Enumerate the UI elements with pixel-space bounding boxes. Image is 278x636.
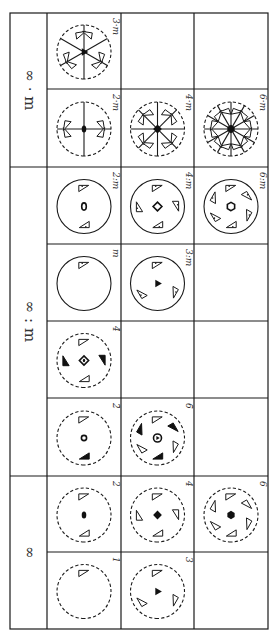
dot-icon [177, 204, 179, 206]
open-triangle-icon [210, 213, 220, 222]
open-triangle-icon [137, 598, 147, 607]
dot-icon [232, 226, 234, 228]
rotation-axis-icon [227, 202, 234, 210]
dot-icon [159, 226, 161, 228]
open-triangle-icon [79, 221, 89, 227]
open-triangle-icon [241, 500, 251, 509]
dot-icon [228, 186, 230, 188]
point-group-label: 4:m [184, 171, 194, 189]
open-triangle-icon [136, 202, 142, 212]
open-triangle-icon [152, 494, 162, 500]
rotation-axis-icon [153, 511, 162, 520]
open-triangle-icon [79, 570, 89, 576]
table-cells: 3·m2·m4·m6·m2:m4:m6:mm3:m4̄2̄6̄24613 [57, 18, 268, 619]
point-group-label: 2 [111, 480, 121, 487]
open-triangle-icon [137, 290, 147, 299]
point-group-cell [131, 102, 185, 156]
open-triangle-icon [226, 494, 236, 500]
point-group-label: 2·m [111, 93, 121, 111]
open-triangle-icon [153, 221, 163, 227]
dot-icon [175, 291, 177, 293]
open-triangle-icon [241, 191, 251, 200]
point-group-label: 1 [111, 557, 121, 563]
filled-triangle-icon [168, 423, 178, 432]
filled-triangle-icon [63, 356, 69, 366]
point-group-cell [57, 488, 111, 542]
point-group-cell [204, 102, 258, 156]
point-group-label: 6 [258, 481, 268, 487]
point-group-label: 2:m [111, 171, 121, 189]
open-triangle-icon [79, 375, 89, 381]
open-triangle-icon [172, 201, 178, 211]
open-triangle-icon [173, 441, 178, 453]
point-group-label: 3 [184, 557, 194, 563]
point-group-cell [57, 102, 111, 156]
open-triangle-icon [171, 113, 177, 125]
open-triangle-icon [79, 185, 89, 191]
twofold-axis-icon [83, 359, 85, 363]
point-group-label: 4 [184, 480, 194, 487]
open-triangle-icon [138, 133, 144, 145]
open-triangle-icon [142, 110, 154, 116]
rotation-axis-icon [227, 125, 234, 133]
dot-icon [137, 208, 139, 210]
point-group-cell [57, 334, 111, 388]
dot-icon [81, 186, 83, 188]
filled-triangle-icon [137, 423, 142, 435]
open-triangle-icon [79, 494, 89, 500]
point-group-cell [57, 565, 111, 619]
open-triangle-icon [226, 530, 236, 536]
open-triangle-icon [152, 417, 162, 423]
open-triangle-icon [161, 143, 173, 149]
dot-icon [155, 186, 157, 188]
point-group-cell [57, 25, 111, 79]
rotation-axis-icon [155, 280, 162, 288]
point-group-label: 4·m [184, 93, 194, 111]
open-triangle-icon [172, 510, 178, 520]
open-triangle-icon [79, 417, 89, 423]
rotation-axis-icon [155, 588, 162, 596]
open-triangle-icon [226, 185, 236, 191]
point-group-label: m [111, 249, 121, 258]
open-triangle-icon [173, 594, 178, 606]
filled-triangle-icon [99, 355, 105, 365]
dot-icon [140, 294, 142, 296]
open-triangle-icon [152, 185, 162, 191]
dot-icon [155, 263, 157, 265]
point-group-cell [57, 180, 111, 234]
open-triangle-icon [137, 445, 147, 454]
point-group-cell [131, 180, 185, 234]
rotation-axis-icon [82, 48, 89, 56]
open-triangle-icon [226, 221, 236, 227]
point-group-cell [57, 411, 111, 465]
point-group-cell [204, 488, 258, 542]
point-group-cell [131, 411, 185, 465]
point-group-cell [57, 257, 111, 311]
group-labels: ∞ · m∞ : m∞ [21, 69, 39, 558]
point-group-label: 6·m [258, 94, 268, 111]
group-label-inf: ∞ [21, 546, 39, 559]
dot-icon [247, 194, 249, 196]
point-group-cell [131, 488, 185, 542]
rotation-axis-icon [227, 511, 234, 519]
rotation-axis-icon [153, 202, 162, 211]
open-triangle-icon [136, 510, 142, 520]
point-group-cell [131, 565, 185, 619]
dot-icon [249, 214, 251, 216]
dot-icon [85, 226, 87, 228]
open-triangle-icon [153, 530, 163, 536]
dot-icon [81, 263, 83, 265]
point-group-cell [131, 257, 185, 311]
point-group-table: ∞ · m∞ : m∞ 3·m2·m4·m6·m2:m4:m6:mm3:m4̄2… [0, 0, 278, 636]
open-triangle-icon [79, 530, 89, 536]
twofold-axis-icon [82, 203, 87, 210]
twofold-axis-icon [82, 125, 87, 132]
group-label-inf-colon-m: ∞ : m [21, 301, 39, 342]
filled-triangle-icon [153, 453, 163, 459]
dot-icon [214, 217, 216, 219]
twofold-axis-icon [82, 511, 87, 518]
point-group-label: 4̄ [111, 325, 121, 332]
point-group-label: 3:m [184, 249, 194, 266]
open-triangle-icon [79, 262, 89, 268]
point-group-label: 3·m [111, 18, 121, 35]
